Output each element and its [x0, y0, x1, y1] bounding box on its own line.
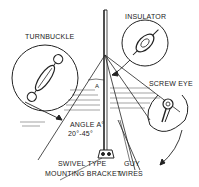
label-bracket-line2: MOUNTING BRACKET — [45, 170, 121, 178]
label-angle-marker: A — [95, 82, 99, 90]
label-guy-line2: WIRES — [119, 170, 143, 178]
swivel-mounting-bracket — [98, 150, 114, 158]
insulator-icon — [129, 25, 163, 59]
antenna-mast-diagram — [0, 0, 199, 187]
label-angle: ANGLE A° — [70, 121, 104, 129]
label-turnbuckle: TURNBUCKLE — [25, 33, 74, 41]
label-bracket-line1: SWIVEL TYPE — [58, 160, 107, 168]
insulator-callout — [112, 20, 168, 76]
mast — [104, 10, 107, 155]
label-screw-eye: SCREW EYE — [149, 80, 193, 88]
angle-arc — [88, 79, 104, 80]
label-guy-line1: GUY — [124, 160, 140, 168]
label-angle-range: 20°-45° — [68, 130, 93, 138]
screw-eye-icon — [162, 99, 173, 122]
turnbuckle-icon — [25, 53, 65, 104]
turnbuckle-callout — [12, 45, 78, 120]
label-insulator: INSULATOR — [125, 13, 166, 21]
screw-eye-callout — [148, 95, 188, 165]
